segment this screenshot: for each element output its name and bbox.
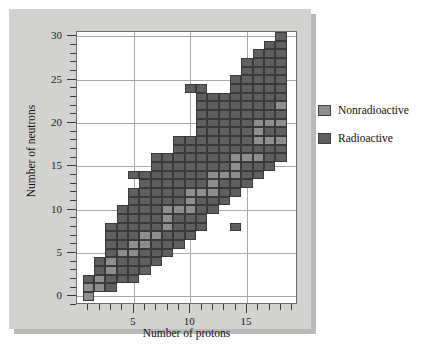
cell-nonradioactive — [94, 275, 105, 284]
cell-radioactive — [219, 136, 230, 145]
cell-radioactive — [185, 179, 196, 188]
x-axis-minor-tick — [291, 304, 292, 310]
cell-radioactive — [196, 153, 207, 162]
x-axis-tick-label: 5 — [121, 315, 145, 327]
cell-radioactive — [207, 197, 218, 206]
cell-radioactive — [196, 214, 207, 223]
cell-radioactive — [151, 205, 162, 214]
cell-radioactive — [162, 249, 173, 258]
cell-radioactive — [151, 223, 162, 232]
cell-radioactive — [264, 162, 275, 171]
cell-radioactive — [196, 205, 207, 214]
x-axis-tick-label: 10 — [177, 315, 201, 327]
cell-radioactive — [139, 205, 150, 214]
cell-radioactive — [275, 145, 286, 154]
y-axis-tick-label: 10 — [40, 203, 62, 215]
cell-radioactive — [105, 240, 116, 249]
y-axis-minor-tick — [70, 44, 76, 45]
y-axis-minor-tick — [70, 235, 76, 236]
cell-radioactive — [230, 110, 241, 119]
cell-radioactive — [128, 188, 139, 197]
y-axis-minor-tick — [70, 287, 76, 288]
cell-radioactive — [117, 266, 128, 275]
cell-radioactive — [173, 223, 184, 232]
cell-radioactive — [207, 162, 218, 171]
cell-radioactive — [253, 67, 264, 76]
cell-radioactive — [230, 93, 241, 102]
y-axis-major-tick — [67, 122, 76, 123]
legend-label-radioactive: Radioactive — [338, 132, 393, 144]
cell-radioactive — [185, 84, 196, 93]
cell-radioactive — [207, 127, 218, 136]
cell-radioactive — [275, 67, 286, 76]
y-axis-minor-tick — [70, 261, 76, 262]
x-axis-minor-tick — [201, 304, 202, 310]
cell-radioactive — [128, 214, 139, 223]
cell-radioactive — [117, 240, 128, 249]
cell-radioactive — [207, 93, 218, 102]
cell-radioactive — [139, 197, 150, 206]
cell-radioactive — [139, 249, 150, 258]
y-axis-major-tick — [67, 209, 76, 210]
y-axis-major-tick — [67, 252, 76, 253]
cell-radioactive — [173, 197, 184, 206]
cell-radioactive — [264, 145, 275, 154]
cell-nonradioactive — [207, 188, 218, 197]
cell-radioactive — [196, 101, 207, 110]
cell-radioactive — [253, 171, 264, 180]
cell-radioactive — [196, 171, 207, 180]
cell-radioactive — [241, 145, 252, 154]
cell-radioactive — [196, 84, 207, 93]
cell-radioactive — [185, 153, 196, 162]
chart-panel: 051015202530 51015 Number of neutrons Nu… — [9, 9, 311, 329]
cell-radioactive — [207, 145, 218, 154]
cell-radioactive — [230, 119, 241, 128]
cell-nonradioactive — [264, 119, 275, 128]
cell-radioactive — [219, 127, 230, 136]
cell-nonradioactive — [83, 283, 94, 292]
cell-radioactive — [173, 136, 184, 145]
cell-radioactive — [117, 214, 128, 223]
y-axis-minor-tick — [70, 131, 76, 132]
x-axis-minor-tick — [144, 304, 145, 310]
cell-radioactive — [207, 119, 218, 128]
x-axis-minor-tick — [280, 304, 281, 310]
cell-nonradioactive — [230, 162, 241, 171]
cell-radioactive — [151, 197, 162, 206]
cell-nonradioactive — [241, 153, 252, 162]
cell-radioactive — [264, 93, 275, 102]
cell-radioactive — [275, 153, 286, 162]
cell-radioactive — [241, 67, 252, 76]
cell-radioactive — [196, 110, 207, 119]
cell-radioactive — [105, 231, 116, 240]
cell-radioactive — [253, 110, 264, 119]
cell-radioactive — [162, 231, 173, 240]
cell-radioactive — [196, 223, 207, 232]
y-axis-minor-tick — [70, 200, 76, 201]
y-axis-tick-label: 15 — [40, 159, 62, 171]
cell-radioactive — [275, 127, 286, 136]
cell-radioactive — [264, 49, 275, 58]
cell-nonradioactive — [128, 249, 139, 258]
cell-radioactive — [196, 162, 207, 171]
cell-radioactive — [253, 58, 264, 67]
cell-radioactive — [241, 58, 252, 67]
x-axis-minor-tick — [121, 304, 122, 310]
cell-radioactive — [207, 205, 218, 214]
cell-radioactive — [128, 197, 139, 206]
cell-radioactive — [173, 214, 184, 223]
cell-radioactive — [253, 162, 264, 171]
cell-radioactive — [275, 84, 286, 93]
x-axis-major-tick — [189, 304, 190, 313]
cell-radioactive — [139, 214, 150, 223]
legend-label-nonradioactive: Nonradioactive — [338, 104, 409, 116]
y-axis-minor-tick — [70, 269, 76, 270]
cell-radioactive — [139, 188, 150, 197]
cell-radioactive — [230, 188, 241, 197]
y-axis-minor-tick — [70, 243, 76, 244]
y-axis-minor-tick — [70, 53, 76, 54]
cell-radioactive — [173, 145, 184, 154]
cell-nonradioactive — [162, 214, 173, 223]
y-axis-minor-tick — [70, 226, 76, 227]
cell-radioactive — [128, 266, 139, 275]
